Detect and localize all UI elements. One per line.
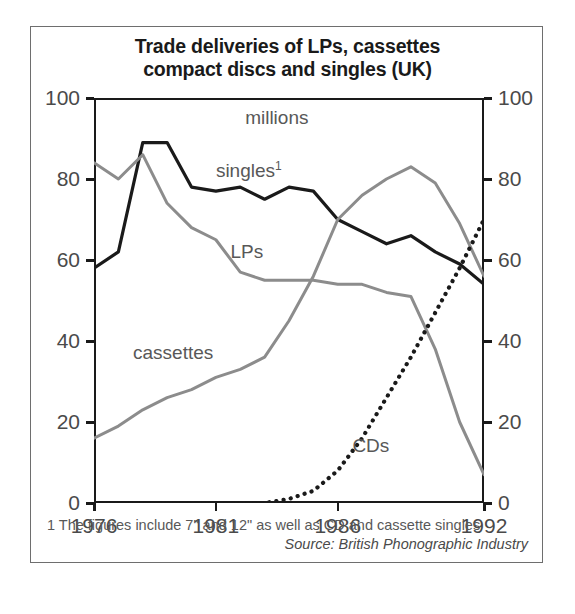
chart-source: Source: British Phonographic Industry (47, 535, 528, 553)
y-axis-right-tick-mark (484, 259, 492, 262)
chart-figure: Trade deliveries of LPs, cassettes compa… (30, 26, 543, 563)
x-axis-tick-mark (215, 503, 218, 511)
y-axis-right-tick-label: 80 (498, 168, 558, 189)
y-axis-left-tick-label: 100 (31, 87, 80, 108)
plot-lines-container (94, 98, 484, 503)
y-axis-right-tick-label: 40 (498, 330, 558, 351)
y-axis-left-tick-mark (86, 259, 94, 262)
y-axis-left-tick-label: 40 (31, 330, 80, 351)
y-axis-left-tick-label: 80 (31, 168, 80, 189)
y-axis-right-tick-mark (484, 421, 492, 424)
y-axis-left-tick-label: 60 (31, 249, 80, 270)
y-axis-left-tick-mark (86, 421, 94, 424)
series-line-cassettes (94, 167, 484, 438)
series-line-LPs (94, 155, 484, 475)
series-lines-svg (94, 98, 484, 503)
chart-title-line-1: Trade deliveries of LPs, cassettes (135, 35, 440, 57)
y-axis-right-tick-mark (484, 97, 492, 100)
y-axis-left-tick-label: 0 (31, 492, 80, 513)
annotation-cassettes: cassettes (133, 343, 213, 362)
annotation-lps: LPs (231, 242, 264, 261)
chart-title-line-2: compact discs and singles (UK) (31, 58, 544, 81)
chart-title: Trade deliveries of LPs, cassettes compa… (31, 35, 544, 81)
y-axis-left-tick-mark (86, 97, 94, 100)
annotation-footnote-marker: 1 (275, 159, 282, 173)
series-line-singles (94, 143, 484, 285)
x-axis-tick-mark (337, 503, 340, 511)
y-axis-right-tick-mark (484, 178, 492, 181)
y-axis-left-tick-mark (86, 340, 94, 343)
y-axis-left-tick-mark (86, 178, 94, 181)
y-axis-left-tick-label: 20 (31, 411, 80, 432)
y-axis-right-tick-label: 60 (498, 249, 558, 270)
y-axis-right-tick-label: 0 (498, 492, 558, 513)
y-axis-right-tick-mark (484, 340, 492, 343)
y-axis-right-tick-label: 100 (498, 87, 558, 108)
chart-footnote: 1 The figures include 7" and 12" as well… (47, 516, 531, 534)
annotation-cds: CDs (352, 436, 389, 455)
y-axis-right-tick-label: 20 (498, 411, 558, 432)
annotation-singles: singles1 (216, 157, 282, 180)
annotation-millions: millions (245, 108, 308, 127)
x-axis-tick-mark (93, 503, 96, 511)
x-axis-tick-mark (483, 503, 486, 511)
